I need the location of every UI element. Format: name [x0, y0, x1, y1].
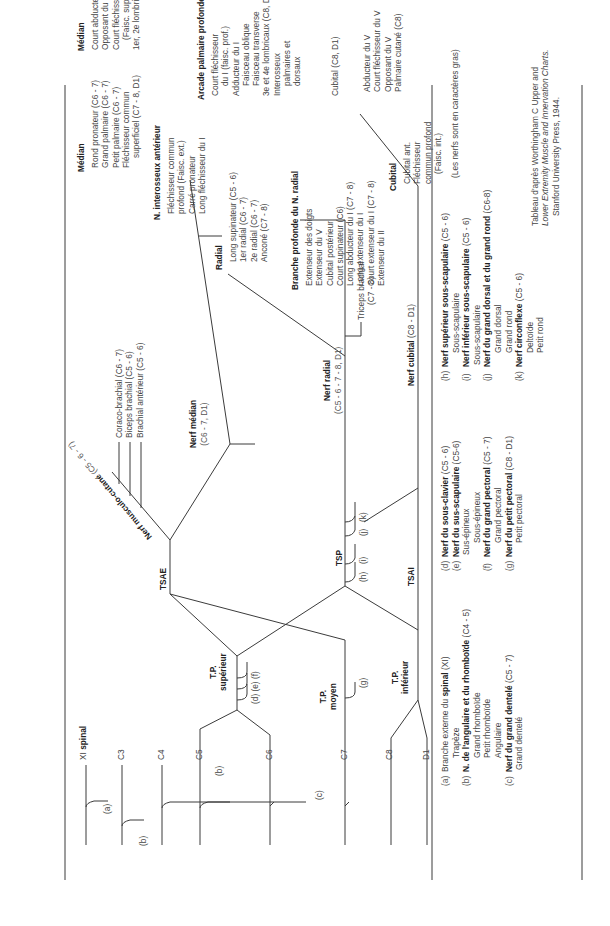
forearm-median-title: Médian — [76, 143, 86, 172]
forearm-interosseux-title: N. interosseux antérieur — [152, 125, 162, 220]
tsp-label-j: (j) — [358, 529, 368, 536]
forearm-cubital-item: Fléchisseur — [412, 122, 422, 184]
root-label-b1: (b) — [138, 836, 148, 846]
forearm-cubital-item: (Faisc. int.) — [433, 122, 443, 184]
legend-col-1: (a)Branche externe du spinal (XI) Trapèz… — [440, 609, 525, 786]
trunk-moy-label: (g) — [358, 678, 368, 688]
forearm-cubital-title: Cubital — [388, 163, 398, 191]
root-c4: C4 — [156, 749, 166, 760]
root-label-c: (c) — [314, 790, 324, 800]
trunk-superieur: T.P.supérieur — [208, 653, 228, 691]
forearm-radial-list: Long supinateur (C5 - 6) 1er radial (C6 … — [228, 172, 269, 262]
trunk-sup-labels: (d) (e) (f) — [250, 671, 260, 704]
forearm-median-list: Rond pronateur (C6 - 7) Grand palmaire (… — [90, 75, 141, 168]
root-c3: C3 — [116, 749, 126, 760]
root-c8: C8 — [384, 749, 394, 760]
tsp-label-h: (h) — [358, 572, 368, 582]
forearm-branche-list: Extenseur des doigts Extenseur du V Cubi… — [304, 180, 386, 286]
hand-median-list: Court abducteur du I Opposant du I Court… — [90, 0, 141, 50]
trunk-tsp: TSP — [334, 550, 344, 566]
hand-cubital-list: Abducteur du V Court fléchisseur du V Op… — [362, 10, 403, 92]
root-c6: C6 — [264, 749, 274, 760]
legend-note: (Les nerfs sont en caractères gras) — [450, 49, 460, 178]
root-label-a: (a) — [102, 804, 112, 814]
rotated-diagram-page: NERF CRANIEN ET BRANCHES ANTÉRIEURES DES… — [0, 0, 610, 926]
root-d1: D1 — [421, 749, 431, 760]
tsp-label-k: (k) — [358, 512, 368, 522]
tsp-label-i: (i) — [358, 557, 368, 564]
hand-arcade-list: Court fléchisseur du I (faisc. prof.) Ad… — [210, 0, 303, 96]
trunk-moyen: T.P.moyen — [318, 683, 338, 710]
nerf-median: Nerf médian(C6 - 7, D1) — [188, 400, 210, 448]
root-c5: C5 — [194, 749, 204, 760]
hand-median-title: Médian — [76, 22, 86, 51]
forearm-cubital-item: Cubital ant. — [402, 122, 412, 184]
trunk-tsae: TSAE — [158, 568, 168, 590]
forearm-cubital-item: commun profond — [423, 122, 433, 184]
root-c7: C7 — [339, 749, 349, 760]
hand-arcade-title: Arcade palmaire profonde — [196, 0, 206, 100]
root-label-b2: (b) — [214, 766, 224, 776]
musculo-branches: Coraco-brachial (C6 - 7) Biceps brachial… — [114, 343, 145, 438]
nerf-radial: Nerf radial(C5 - 6 - 7 - 8, D1) — [322, 347, 344, 414]
legend-source: Tableau d'après Worthingham C Upper and … — [530, 49, 561, 226]
forearm-cubital-items: Cubital ant.Fléchisseurcommun profond(Fa… — [402, 122, 443, 184]
forearm-interosseux-list: Fléchisseur commun profond (Faisc. ext.)… — [166, 137, 207, 214]
nerf-cubital: Nerf cubital (C8 - D1) — [406, 304, 416, 386]
root-xi-spinal: XI spinal — [78, 726, 88, 760]
forearm-branche-title: Branche profonde du N. radial — [290, 171, 300, 290]
trunk-tsai: TSAI — [406, 567, 416, 586]
hand-cubital-label: Cubital (C8, D1) — [330, 37, 340, 96]
trunk-inferieur: T.P.inférieur — [390, 661, 410, 694]
legend-col-2: (d)Nerf du sous-clavier (C5 - 6) (e)Nerf… — [440, 436, 525, 571]
forearm-radial-title: Radial — [214, 245, 224, 270]
